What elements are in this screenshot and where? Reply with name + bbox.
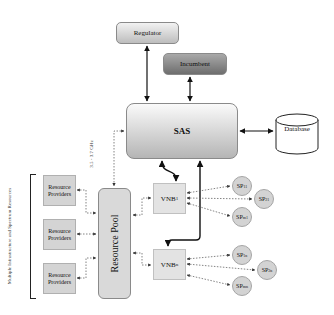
frequency-label: 3.5 - 3.7 GHz — [86, 128, 96, 180]
resource-pool-label: Resource Pool — [109, 214, 120, 272]
regulator-label: Regulator — [134, 29, 162, 37]
regulator-node: Regulator — [116, 22, 179, 44]
incumbent-node: Incumbent — [163, 53, 227, 75]
vnb-1-node: VNB1 — [153, 183, 186, 214]
database-cylinder — [276, 114, 318, 154]
incumbent-label: Incumbent — [180, 60, 210, 68]
resource-provider-3: Resource Providers — [43, 263, 76, 294]
resources-bracket — [30, 174, 36, 299]
sp-2n-node: SP2n — [257, 260, 277, 280]
sp-mn-node: SPmn — [232, 276, 252, 296]
side-label: Multiple Infrastructure and Spectrum Res… — [4, 172, 14, 300]
resource-provider-1: Resource Providers — [43, 175, 76, 206]
sp-21-node: SP21 — [254, 189, 274, 209]
sp-11-node: SP11 — [232, 176, 252, 196]
resource-provider-2: Resource Providers — [43, 219, 76, 250]
vnb-n-node: VNBn — [153, 249, 186, 280]
sp-1n-node: SP1n — [232, 245, 252, 265]
sp-m1-node: SPm1 — [232, 207, 252, 227]
sas-label: SAS — [174, 126, 191, 136]
database-label: Database — [275, 125, 319, 133]
resource-pool-node: Resource Pool — [98, 188, 131, 299]
sas-node: SAS — [126, 103, 238, 159]
